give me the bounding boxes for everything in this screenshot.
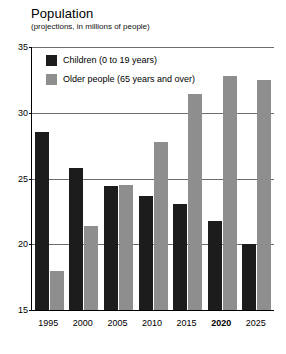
bar-children-2015 <box>173 204 187 311</box>
bar-older-people-2000 <box>84 226 98 310</box>
x-tick-label-2010: 2010 <box>142 318 162 329</box>
x-axis-labels: 1995200020052010201520202025 <box>31 318 274 334</box>
x-tick-label-2015: 2015 <box>177 318 197 329</box>
bar-children-2005 <box>104 186 118 310</box>
bar-children-2010 <box>139 196 153 310</box>
x-tick-label-1995: 1995 <box>38 318 58 329</box>
legend-swatch-children-icon <box>46 55 57 66</box>
chart-legend: Children (0 to 19 years) Older people (6… <box>46 53 236 91</box>
legend-item-older-people: Older people (65 years and over) <box>46 72 236 86</box>
y-tick-mark-15 <box>29 310 32 311</box>
y-tick-label-15: 15 <box>18 306 28 315</box>
y-tick-label-25: 25 <box>18 174 28 183</box>
bar-children-2025 <box>242 244 256 310</box>
bar-older-people-2020 <box>223 76 237 310</box>
bar-older-people-2025 <box>257 80 271 310</box>
legend-swatch-older-people-icon <box>46 74 57 85</box>
bar-older-people-2005 <box>119 185 133 310</box>
bar-older-people-2010 <box>154 142 168 310</box>
x-tick-label-2025: 2025 <box>246 318 266 329</box>
legend-label-older-people: Older people (65 years and over) <box>63 74 195 85</box>
x-tick-label-2000: 2000 <box>73 318 93 329</box>
y-tick-label-35: 35 <box>18 43 28 52</box>
bar-group-2025 <box>242 47 271 310</box>
chart-subtitle: (projections, in millions of people) <box>31 22 271 32</box>
y-tick-label-30: 30 <box>18 108 28 117</box>
y-tick-label-20: 20 <box>18 240 28 249</box>
bar-children-2020 <box>208 221 222 310</box>
legend-label-children: Children (0 to 19 years) <box>63 55 157 66</box>
legend-item-children: Children (0 to 19 years) <box>46 53 236 67</box>
page-title: Population <box>31 6 271 21</box>
bar-older-people-1995 <box>50 271 64 310</box>
bar-older-people-2015 <box>188 94 202 310</box>
bar-children-2000 <box>69 168 83 310</box>
population-bar-chart-figure: Population (projections, in millions of … <box>0 0 286 354</box>
bar-children-1995 <box>35 132 49 310</box>
x-tick-label-2020: 2020 <box>211 318 231 329</box>
x-tick-label-2005: 2005 <box>107 318 127 329</box>
chart-title-block: Population (projections, in millions of … <box>31 6 271 32</box>
